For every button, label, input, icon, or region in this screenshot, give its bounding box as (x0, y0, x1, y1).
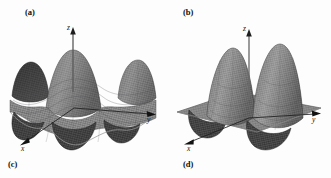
left-surface-mesh (10, 50, 156, 150)
right-z-axis-label: z (243, 25, 246, 33)
left-x-axis-label: x (21, 145, 24, 153)
panel-right-surface: z x y (b) (d) (165, 0, 331, 178)
panel-tag-c: (c) (8, 160, 17, 169)
panel-tag-a: (a) (25, 8, 35, 17)
left-z-axis-label: z (67, 24, 70, 32)
left-surface-plot (0, 0, 166, 178)
figure-canvas: z x y (a) (c) (0, 0, 331, 178)
right-x-axis-label: x (187, 145, 190, 153)
panel-tag-d: (d) (183, 160, 193, 169)
right-y-axis-label: y (312, 116, 315, 124)
left-y-axis-label: y (147, 116, 150, 124)
panel-tag-b: (b) (183, 8, 193, 17)
panel-left-surface: z x y (a) (c) (0, 0, 166, 178)
